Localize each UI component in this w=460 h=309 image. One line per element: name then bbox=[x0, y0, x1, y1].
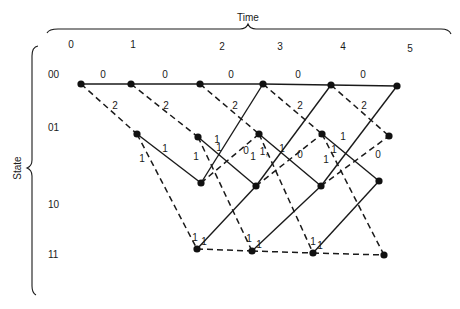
edge-label: 1 bbox=[214, 134, 220, 145]
edge-label: 1 bbox=[256, 239, 262, 250]
trellis-edge-01-1-to-10-2 bbox=[137, 134, 201, 183]
edge-label: 0 bbox=[162, 69, 168, 80]
edge-label: 1 bbox=[162, 143, 168, 154]
trellis-node-00-5 bbox=[393, 82, 400, 89]
time-tick-label: 4 bbox=[340, 41, 346, 52]
trellis-node-00-3 bbox=[259, 80, 266, 87]
trellis-edge-11-4-to-11-5 bbox=[313, 253, 384, 255]
trellis-node-11-5 bbox=[380, 251, 387, 258]
trellis-node-01-2 bbox=[194, 133, 201, 140]
time-brace bbox=[47, 24, 451, 34]
edge-label: 2 bbox=[232, 100, 238, 111]
trellis-edge-00-3-to-00-4 bbox=[263, 84, 331, 85]
state-label: 00 bbox=[48, 69, 60, 80]
edge-label: 0 bbox=[243, 145, 249, 156]
trellis-node-11-4 bbox=[309, 249, 316, 256]
trellis-node-10-4 bbox=[317, 182, 324, 189]
trellis-edge-00-2-to-01-3 bbox=[200, 84, 259, 134]
edge-label: 1 bbox=[193, 151, 199, 162]
trellis-node-01-4 bbox=[318, 130, 325, 137]
trellis-node-10-2 bbox=[197, 179, 204, 186]
edge-label: 0 bbox=[228, 69, 234, 80]
edge-label: 0 bbox=[297, 149, 303, 160]
edge-label: 1 bbox=[279, 143, 285, 154]
edge-label: 0 bbox=[100, 69, 106, 80]
trellis-node-01-5 bbox=[385, 132, 392, 139]
time-axis-title: Time bbox=[237, 12, 259, 23]
trellis-edge-00-4-to-00-5 bbox=[331, 85, 397, 86]
edge-label: 1 bbox=[310, 236, 316, 247]
edge-label: 1 bbox=[250, 151, 256, 162]
trellis-edge-00-4-to-01-5 bbox=[331, 85, 389, 136]
time-tick-label: 5 bbox=[407, 43, 413, 54]
state-label: 11 bbox=[48, 249, 59, 260]
edge-label: 1 bbox=[201, 236, 207, 247]
trellis-node-11-3 bbox=[248, 247, 255, 254]
edge-label: 2 bbox=[361, 100, 367, 111]
trellis-edge-10-2-to-00-3 bbox=[201, 84, 263, 183]
time-tick-labels: 012345 bbox=[68, 39, 413, 54]
edge-label: 0 bbox=[375, 149, 381, 160]
edge-label: 1 bbox=[192, 232, 198, 243]
trellis-node-10-5 bbox=[375, 177, 382, 184]
edge-label: 1 bbox=[246, 233, 252, 244]
state-axis-title: State bbox=[12, 156, 23, 180]
trellis-edges bbox=[81, 84, 397, 255]
trellis-node-00-2 bbox=[196, 80, 203, 87]
state-label: 01 bbox=[48, 122, 60, 133]
trellis-edge-11-2-to-11-3 bbox=[197, 249, 252, 251]
time-tick-label: 2 bbox=[219, 41, 225, 52]
trellis-node-01-1 bbox=[133, 130, 140, 137]
trellis-nodes bbox=[77, 80, 400, 258]
trellis-node-00-1 bbox=[127, 80, 134, 87]
edge-label: 0 bbox=[295, 69, 301, 80]
edge-label: 2 bbox=[297, 100, 303, 111]
edge-label: 0 bbox=[360, 69, 366, 80]
trellis-diagram: Time State 0000022222111,111111110001111… bbox=[0, 0, 460, 309]
trellis-edge-11-3-to-11-4 bbox=[252, 251, 313, 253]
time-tick-label: 3 bbox=[277, 41, 283, 52]
edge-label: 1 bbox=[331, 144, 337, 155]
state-brace bbox=[27, 46, 38, 295]
edge-label: 1 bbox=[139, 153, 145, 164]
edge-label: 1 bbox=[317, 240, 323, 251]
edge-label: 2 bbox=[112, 100, 118, 111]
state-labels: 00011011 bbox=[48, 69, 60, 260]
trellis-edge-00-0-to-01-1 bbox=[81, 84, 137, 134]
state-label: 10 bbox=[48, 199, 60, 210]
trellis-edge-11-4-to-10-5 bbox=[313, 181, 379, 253]
edge-label: 1, bbox=[260, 146, 268, 157]
trellis-node-10-3 bbox=[252, 182, 259, 189]
edge-label: 1 bbox=[340, 131, 346, 142]
edge-label: 1 bbox=[323, 154, 329, 165]
edge-label: 2 bbox=[163, 100, 169, 111]
trellis-node-01-3 bbox=[255, 130, 262, 137]
time-tick-label: 1 bbox=[130, 39, 136, 50]
time-tick-label: 0 bbox=[68, 39, 74, 50]
trellis-node-00-4 bbox=[327, 81, 334, 88]
trellis-node-00-0 bbox=[77, 80, 84, 87]
trellis-node-11-2 bbox=[193, 245, 200, 252]
